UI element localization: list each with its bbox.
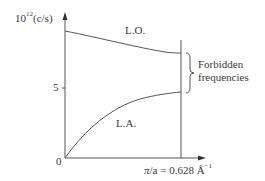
forbidden-label-line1: Forbidden xyxy=(198,59,243,70)
origin-label: 0 xyxy=(56,156,62,167)
y-tick-label: 5 xyxy=(53,82,59,93)
brace-icon xyxy=(186,53,194,93)
lo-curve xyxy=(65,31,181,53)
forbidden-label-line2: frequencies xyxy=(198,72,249,83)
lo-label: L.O. xyxy=(125,25,145,36)
y-axis-label: 1012(c/s) xyxy=(15,13,53,24)
y-axis-arrow-icon xyxy=(63,12,68,20)
x-axis-label: π/a = 0.628 Å−1 xyxy=(144,165,212,176)
x-axis-arrow-icon xyxy=(198,156,206,161)
la-label: L.A. xyxy=(116,118,136,129)
